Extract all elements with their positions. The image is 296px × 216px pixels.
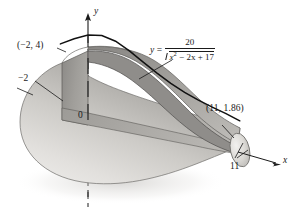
equation-label: y = 20 x2 − 2x + 17	[150, 38, 215, 62]
equation-fraction: 20 x2 − 2x + 17	[165, 38, 215, 62]
leader-point-left	[57, 48, 66, 52]
x-axis-label: x	[283, 156, 287, 166]
figure-container: y (−2, 4) −2 0 (11, 1.86) 11 x y = 20 x2…	[0, 0, 296, 216]
origin-label: 0	[78, 111, 83, 121]
tick-label-left: −2	[18, 74, 28, 84]
radical-overbar	[169, 51, 214, 52]
tick-label-right: 11	[230, 162, 239, 172]
equation-lhs: y	[150, 45, 154, 55]
equation-equals-sign: =	[157, 45, 162, 55]
point-label-left: (−2, 4)	[17, 41, 44, 51]
y-axis-label: y	[94, 7, 98, 17]
point-label-right: (11, 1.86)	[206, 104, 244, 114]
y-axis-visible	[85, 13, 91, 47]
x-axis-arrowhead	[272, 163, 281, 167]
equation-numerator: 20	[179, 38, 200, 48]
solid-of-revolution-graphic	[0, 0, 296, 216]
radical-sign: x2 − 2x + 17	[166, 51, 214, 62]
denominator-rest: − 2x + 17	[179, 52, 214, 62]
equation-denominator: x2 − 2x + 17	[165, 49, 215, 62]
